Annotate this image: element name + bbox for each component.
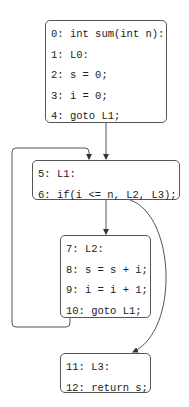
control-flow-graph: 0: int sum(int n): 1: L0: 2: s = 0; 3: i… xyxy=(0,0,189,407)
code-line: 0: int sum(int n): xyxy=(51,24,166,45)
code-line: 1: L0: xyxy=(51,45,166,66)
code-line: 11: L3: xyxy=(66,357,150,378)
code-line: 3: i = 0; xyxy=(51,86,166,107)
code-line: 2: s = 0; xyxy=(51,65,166,86)
code-line: 12: return s; xyxy=(66,378,150,399)
code-line: 8: s = s + i; xyxy=(66,260,150,281)
code-line: 10: goto L1; xyxy=(66,301,150,322)
basic-block-b2: 7: L2: 8: s = s + i; 9: i = i + 1; 10: g… xyxy=(60,235,151,318)
basic-block-b0: 0: int sum(int n): 1: L0: 2: s = 0; 3: i… xyxy=(45,20,167,123)
basic-block-b3: 11: L3: 12: return s; xyxy=(60,353,151,393)
code-line: 6: if(i <= n, L2, L3); xyxy=(38,185,179,206)
basic-block-b1: 5: L1: 6: if(i <= n, L2, L3); xyxy=(32,160,180,200)
code-line: 4: goto L1; xyxy=(51,106,166,127)
code-line: 7: L2: xyxy=(66,239,150,260)
code-line: 5: L1: xyxy=(38,164,179,185)
code-line: 9: i = i + 1; xyxy=(66,280,150,301)
